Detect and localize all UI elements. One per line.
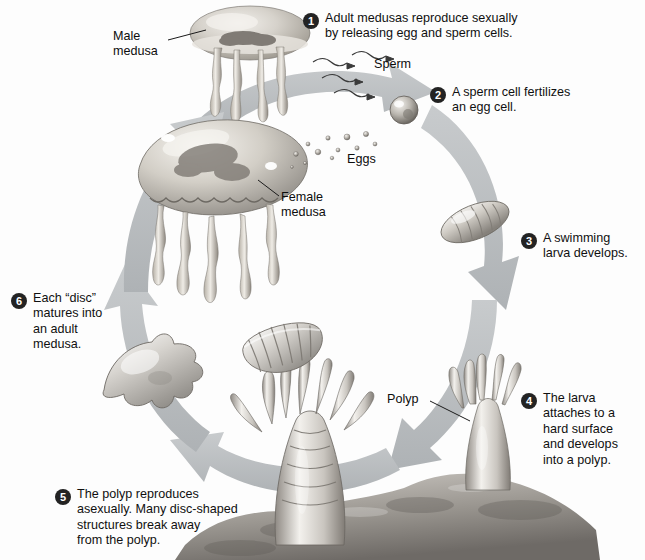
step-6-text: Each “disc” matures into an adult medusa… xyxy=(33,291,102,353)
step-4: 4 The larva attaches to a hard surface a… xyxy=(521,391,637,468)
step-3-text: A swimming larva develops. xyxy=(543,231,628,262)
step-1-badge: 1 xyxy=(303,13,319,29)
label-eggs: Eggs xyxy=(347,152,376,167)
label-male-medusa: Male medusa xyxy=(113,29,158,59)
step-4-badge: 4 xyxy=(521,393,537,409)
step-2-text: A sperm cell fertilizes an egg cell. xyxy=(452,85,570,116)
step-1-text: Adult medusas reproduce sexually by rele… xyxy=(325,11,518,42)
fertilized-egg-illustration xyxy=(390,96,418,124)
step-1: 1 Adult medusas reproduce sexually by re… xyxy=(303,11,558,42)
label-female-medusa: Female medusa xyxy=(281,190,326,220)
life-cycle-diagram: 1 Adult medusas reproduce sexually by re… xyxy=(0,0,645,560)
step-3: 3 A swimming larva develops. xyxy=(521,231,641,262)
cycle-arrow-ring xyxy=(0,0,645,560)
step-5-text: The polyp reproduces asexually. Many dis… xyxy=(77,487,238,549)
step-5: 5 The polyp reproduces asexually. Many d… xyxy=(55,487,285,549)
label-sperm: Sperm xyxy=(374,57,411,72)
step-6-badge: 6 xyxy=(11,293,27,309)
label-polyp: Polyp xyxy=(387,392,419,407)
disc-stack-illustration xyxy=(239,315,329,380)
step-2: 2 A sperm cell fertilizes an egg cell. xyxy=(430,85,605,116)
step-3-badge: 3 xyxy=(521,233,537,249)
step-5-badge: 5 xyxy=(55,489,71,505)
step-6: 6 Each “disc” matures into an adult medu… xyxy=(11,291,129,353)
step-4-text: The larva attaches to a hard surface and… xyxy=(543,391,618,468)
step-2-badge: 2 xyxy=(430,87,446,103)
